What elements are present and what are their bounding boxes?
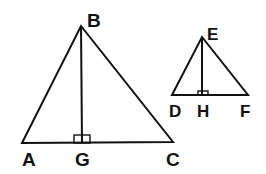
label-a: A [22, 149, 36, 170]
label-b: B [87, 10, 101, 31]
label-g: G [75, 149, 90, 170]
triangle-def [172, 37, 248, 95]
label-e: E [207, 25, 218, 44]
label-f: F [240, 102, 250, 121]
geometry-diagram: B A G C E D H F [0, 0, 266, 174]
triangle-abc-outline [22, 26, 173, 143]
label-h: H [197, 102, 209, 121]
triangle-abc [22, 26, 173, 143]
label-d: D [169, 102, 181, 121]
label-c: C [166, 149, 180, 170]
altitude-bg [81, 26, 82, 143]
triangle-def-outline [172, 37, 248, 95]
